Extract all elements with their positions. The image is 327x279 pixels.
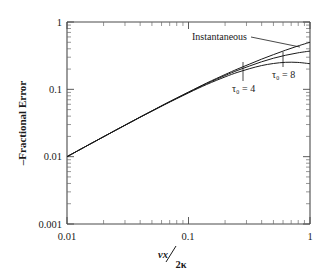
x-axis-title: νx 2κ [158, 246, 187, 270]
annotation-label-tau0-8: τ₀ = 8 [272, 69, 295, 80]
x-axis-title-numerator: νx [158, 249, 168, 260]
annotation-label-tau0-4: τ₀ = 4 [232, 83, 255, 94]
annotation-label-instantaneous: Instantaneous [192, 31, 247, 42]
leader-line-instantaneous [251, 37, 300, 47]
plot-frame [67, 22, 310, 224]
y-axis-title: –Fractional Error [16, 81, 28, 167]
y-tick-label-0.1: 0.1 [49, 84, 62, 95]
data-curve [67, 51, 310, 157]
fractional-error-log-log-chart: 1 0.1 0.01 0.001 0.01 0.1 1 –Fractional … [0, 0, 327, 279]
y-tick-label-0.001: 0.001 [38, 219, 62, 230]
y-tick-label-0.01: 0.01 [44, 151, 62, 162]
x-tick-label-0.01: 0.01 [58, 231, 76, 242]
x-axis-title-denominator: 2κ [175, 259, 186, 270]
y-axis-ticks [67, 22, 310, 224]
x-axis-ticks [67, 22, 310, 224]
data-curve [67, 42, 310, 156]
data-curves [67, 42, 310, 156]
y-tick-label-1: 1 [57, 17, 62, 28]
x-tick-label-1: 1 [307, 231, 312, 242]
x-tick-label-0.1: 0.1 [181, 231, 194, 242]
annotation-instantaneous: Instantaneous [192, 31, 300, 47]
